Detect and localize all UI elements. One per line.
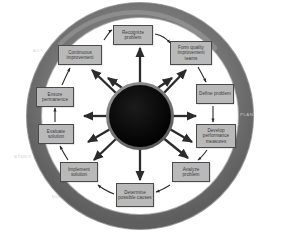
step-box-ensure-permanence[interactable]: Ensure permanence (36, 87, 74, 107)
flow-2-to-3 (198, 67, 206, 82)
step-box-determine-possible-causes[interactable]: Determine possible causes (116, 183, 154, 207)
step-label: Evaluate solution (39, 129, 73, 140)
step-box-recognize-problem[interactable]: Recognize problem (113, 25, 153, 45)
center-hub (106, 82, 174, 150)
quadrant-label-study: STUDY (14, 154, 31, 159)
quadrant-label-plan: PLAN (240, 112, 253, 117)
step-box-continuous-improvement[interactable]: Continuous improvement (58, 45, 102, 65)
flow-4-to-5 (198, 150, 207, 160)
step-box-form-quality-improvement-teams[interactable]: Form quality improvement teams (170, 41, 212, 65)
flow-5-to-6 (156, 185, 170, 192)
step-box-evaluate-solution[interactable]: Evaluate solution (38, 124, 74, 144)
flow-9-to-10 (62, 68, 70, 85)
step-box-develop-performance-measures[interactable]: Develop performance measures (196, 124, 236, 148)
step-box-implement-solution[interactable]: Implement solution (60, 162, 98, 182)
flow-7-to-8 (60, 146, 68, 160)
pdsa-cycle-diagram: Recognize problem Form quality improveme… (0, 0, 292, 232)
quadrant-label-do: DO (52, 194, 60, 199)
step-label: Continuous improvement (59, 50, 101, 61)
quadrant-label-act: ACT (33, 48, 43, 53)
step-box-analyze-problem[interactable]: Analyze problem (172, 162, 210, 182)
step-label: Define problem (198, 91, 232, 96)
step-label: Recognize problem (114, 30, 152, 41)
step-label: Analyze problem (173, 167, 209, 178)
flow-6-to-7 (98, 185, 114, 194)
step-label: Ensure permanence (37, 92, 73, 103)
step-label: Determine possible causes (117, 190, 153, 201)
step-label: Develop performance measures (197, 128, 235, 144)
step-label: Form quality improvement teams (171, 45, 211, 61)
step-label: Implement solution (61, 167, 97, 178)
step-box-define-problem[interactable]: Define problem (196, 84, 234, 104)
flow-1-to-2 (155, 34, 170, 43)
flow-10-to-1 (104, 30, 112, 40)
